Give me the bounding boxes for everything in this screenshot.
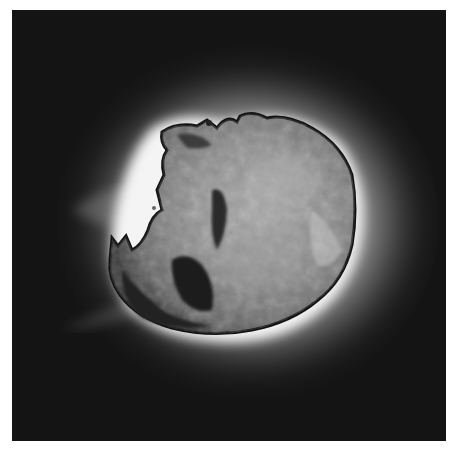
comet-nucleus-illustration bbox=[12, 10, 446, 441]
comet-photo bbox=[12, 10, 446, 441]
